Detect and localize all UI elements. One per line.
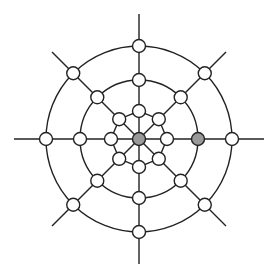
node [40,133,53,146]
node [198,198,211,211]
node [161,133,174,146]
node [91,91,104,104]
node [198,67,211,80]
node [174,174,187,187]
highlighted-node [192,133,205,146]
node [174,91,187,104]
node [133,40,146,53]
node [152,152,165,165]
node [133,105,146,118]
node [133,74,146,87]
node [67,198,80,211]
node [226,133,239,146]
node [133,192,146,205]
node [91,174,104,187]
node [74,133,87,146]
node [113,152,126,165]
center-node [133,133,146,146]
radial-web-diagram [0,0,278,277]
node [133,161,146,174]
node [152,113,165,126]
node [105,133,118,146]
node [133,226,146,239]
node [113,113,126,126]
node [67,67,80,80]
